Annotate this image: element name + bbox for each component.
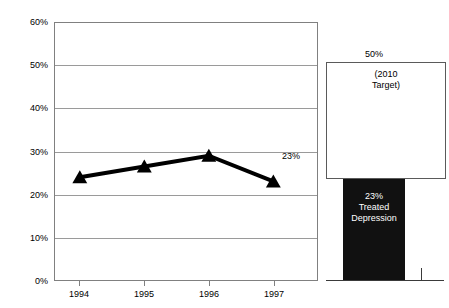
y-tick-label-60: 60% bbox=[8, 17, 48, 27]
y-tick-label-10: 10% bbox=[8, 233, 48, 243]
bar-treated-label-line3: Depression bbox=[343, 213, 405, 224]
bar-segment-2010-target: (2010 Target) bbox=[326, 62, 446, 179]
line-path bbox=[80, 156, 274, 182]
target-bar-panel: 50% (2010 Target) 23% Treated Depression bbox=[326, 22, 446, 281]
bar-baseline-axis bbox=[326, 280, 444, 281]
x-tick-label-1994: 1994 bbox=[59, 289, 99, 300]
bar-target-label-line1: (2010 bbox=[327, 69, 445, 80]
x-tick-label-1996: 1996 bbox=[189, 289, 229, 300]
bar-axis-right-tick bbox=[421, 268, 422, 281]
bar-treated-label-line1: 23% bbox=[343, 191, 405, 202]
x-tick-1994 bbox=[79, 281, 80, 286]
data-label-1997: 23% bbox=[282, 151, 300, 161]
y-tick-label-40: 40% bbox=[8, 103, 48, 113]
y-tick-label-50: 50% bbox=[8, 60, 48, 70]
x-tick-1997 bbox=[274, 281, 275, 286]
x-tick-label-1997: 1997 bbox=[254, 289, 294, 300]
bar-total-label: 50% bbox=[343, 49, 405, 60]
y-tick-label-30: 30% bbox=[8, 147, 48, 157]
line-series-treated-depression bbox=[55, 23, 317, 280]
y-axis: 60% 50% 40% 30% 20% 10% 0% bbox=[0, 0, 48, 308]
x-axis: 1994 1995 1996 1997 bbox=[54, 281, 318, 308]
chart-figure: 60% 50% 40% 30% 20% 10% 0% 23% 1994 19 bbox=[0, 0, 449, 308]
x-tick-label-1995: 1995 bbox=[124, 289, 164, 300]
y-tick-label-20: 20% bbox=[8, 190, 48, 200]
bar-treated-label-line2: Treated bbox=[343, 202, 405, 213]
x-tick-1996 bbox=[209, 281, 210, 286]
bar-segment-treated-depression: 23% Treated Depression bbox=[343, 179, 405, 280]
line-chart-plot-area: 23% bbox=[54, 22, 318, 281]
x-tick-1995 bbox=[144, 281, 145, 286]
y-tick-label-0: 0% bbox=[8, 276, 48, 286]
bar-target-label-line2: Target) bbox=[327, 80, 445, 91]
